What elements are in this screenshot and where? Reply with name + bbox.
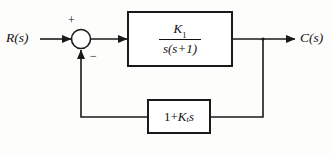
summing-junction-minus-sign: −	[90, 50, 97, 62]
summing-junction-plus-sign: +	[68, 14, 75, 26]
forward-block-expression: K1 s(s+1)	[128, 12, 232, 66]
feedback-gain-subscript: t	[187, 114, 189, 124]
block-diagram: R(s) C(s) + − K1 s(s+1) 1+Kts	[0, 0, 333, 155]
feedback-prefix: 1+	[164, 109, 178, 125]
feedback-block-expression: 1+Kts	[148, 100, 210, 133]
feedback-gain: K	[178, 109, 187, 125]
output-label: C(s)	[300, 31, 323, 45]
input-label: R(s)	[6, 31, 29, 45]
numerator-gain: K	[174, 21, 183, 36]
summing-junction-circle	[72, 30, 91, 49]
fraction-numerator: K1	[170, 21, 191, 40]
fraction-denominator: s(s+1)	[159, 40, 201, 57]
feedback-suffix: s	[189, 109, 194, 125]
transfer-function-fraction: K1 s(s+1)	[159, 21, 201, 58]
numerator-gain-subscript: 1	[182, 30, 186, 40]
